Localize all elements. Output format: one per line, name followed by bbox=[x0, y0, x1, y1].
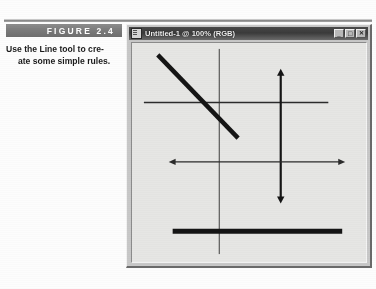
window-title-text: Untitled-1 @ 100% (RGB) bbox=[145, 29, 235, 38]
vertical-double-arrow-rule-arrowhead-end bbox=[277, 197, 284, 204]
horizontal-double-arrow-rule-arrowhead-start bbox=[169, 159, 176, 165]
document-icon bbox=[131, 28, 142, 39]
horizontal-double-arrow-rule-arrowhead-end bbox=[338, 159, 345, 165]
vertical-double-arrow-rule-arrowhead-start bbox=[277, 69, 284, 76]
minimize-button[interactable]: _ bbox=[334, 29, 344, 38]
minimize-icon: _ bbox=[335, 31, 343, 38]
maximize-icon: □ bbox=[346, 30, 354, 37]
thick-diagonal-rule bbox=[158, 55, 238, 138]
document-canvas[interactable] bbox=[131, 42, 367, 263]
page-top-rule bbox=[4, 19, 372, 22]
figure-caption-block: FIGURE 2.4 Use the Line tool to cre- ate… bbox=[6, 24, 122, 67]
close-icon: ✕ bbox=[357, 30, 365, 37]
figure-caption-line-2: ate some simple rules. bbox=[6, 56, 122, 68]
figure-caption-text: Use the Line tool to cre- ate some simpl… bbox=[6, 44, 122, 67]
page-background: FIGURE 2.4 Use the Line tool to cre- ate… bbox=[0, 0, 376, 289]
title-bar-filler bbox=[235, 27, 334, 40]
close-button[interactable]: ✕ bbox=[356, 29, 366, 38]
maximize-button[interactable]: □ bbox=[345, 29, 355, 38]
image-editor-window: Untitled-1 @ 100% (RGB) _ □ ✕ bbox=[126, 24, 372, 268]
figure-label-band: FIGURE 2.4 bbox=[6, 24, 122, 37]
window-title-bar[interactable]: Untitled-1 @ 100% (RGB) _ □ ✕ bbox=[129, 27, 368, 40]
figure-number-label: FIGURE 2.4 bbox=[47, 26, 115, 36]
drawn-rules-layer bbox=[144, 49, 345, 254]
window-controls: _ □ ✕ bbox=[334, 29, 366, 38]
canvas-drawing bbox=[132, 43, 366, 262]
figure-caption-line-1: Use the Line tool to cre- bbox=[6, 44, 122, 56]
